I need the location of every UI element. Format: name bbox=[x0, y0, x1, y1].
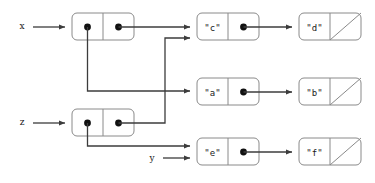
cell-d-cons: "d" bbox=[299, 13, 361, 40]
atom-label-a: "a" bbox=[204, 88, 220, 98]
atom-label-f: "f" bbox=[306, 148, 322, 158]
atom-label-e: "e" bbox=[204, 148, 220, 158]
variable-label-x: x bbox=[19, 21, 24, 31]
atom-label-b: "b" bbox=[306, 88, 322, 98]
cell-b-cons: "b" bbox=[299, 78, 361, 105]
variable-label-z: z bbox=[20, 117, 25, 127]
variable-label-y: y bbox=[148, 153, 155, 163]
cons-cell-diagram: "c" "d" "a" "b" "e" bbox=[0, 0, 375, 183]
atom-label-c: "c" bbox=[204, 23, 220, 33]
diagram-canvas: "c" "d" "a" "b" "e" bbox=[0, 0, 375, 183]
cell-f-cons: "f" bbox=[299, 138, 361, 165]
atom-label-d: "d" bbox=[306, 23, 322, 33]
